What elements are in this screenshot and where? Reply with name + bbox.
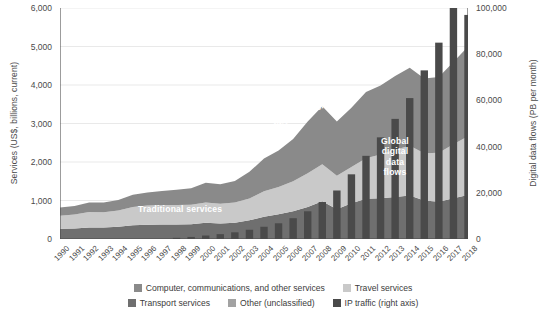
- chart-figure: Services (US$, billions, current) Digita…: [0, 0, 546, 314]
- bar-ip-traffic: [289, 218, 296, 239]
- y-tick-label: 6,000: [4, 3, 52, 13]
- bar-ip-traffic: [275, 223, 282, 239]
- legend-item[interactable]: IP traffic (right axis): [333, 298, 419, 308]
- legend-swatch-icon: [128, 299, 136, 307]
- annotation-global-digital-data-flows: Globaldigitaldataflows: [370, 136, 420, 178]
- bar-ip-traffic: [421, 70, 428, 239]
- bar-ip-traffic: [464, 15, 468, 239]
- y-tick-label: 3,000: [4, 119, 52, 129]
- legend-swatch-icon: [333, 299, 341, 307]
- legend-item[interactable]: Travel services: [343, 283, 412, 293]
- legend-label: Computer, communications, and other serv…: [146, 283, 325, 293]
- legend-row-1: Computer, communications, and other serv…: [0, 280, 546, 295]
- legend-item[interactable]: Other (unclassified): [228, 298, 315, 308]
- bar-ip-traffic: [304, 211, 311, 239]
- legend-item[interactable]: Computer, communications, and other serv…: [134, 283, 325, 293]
- y-tick-label: 2,000: [4, 157, 52, 167]
- bar-ip-traffic: [435, 43, 442, 239]
- y2-tick-label: 0: [476, 234, 522, 244]
- legend-row-2: Transport servicesOther (unclassified)IP…: [0, 295, 546, 310]
- y-tick-label: 4,000: [4, 80, 52, 90]
- bar-ip-traffic: [362, 156, 369, 239]
- y-axis-right-title: Digital data flows (PB per month): [528, 48, 538, 198]
- chart-legend: Computer, communications, and other serv…: [0, 280, 546, 310]
- y2-tick-label: 80,000: [476, 49, 522, 59]
- y2-tick-label: 40,000: [476, 142, 522, 152]
- bar-ip-traffic: [260, 227, 267, 239]
- legend-swatch-icon: [343, 284, 351, 292]
- y2-tick-label: 20,000: [476, 188, 522, 198]
- bar-ip-traffic: [333, 190, 340, 239]
- legend-label: Other (unclassified): [240, 298, 315, 308]
- annotation-traditional-services: Traditional services: [138, 204, 222, 214]
- bar-ip-traffic: [231, 232, 238, 239]
- y-tick-label: 0: [4, 234, 52, 244]
- y-tick-label: 5,000: [4, 42, 52, 52]
- bar-ip-traffic: [348, 174, 355, 239]
- legend-label: Travel services: [355, 283, 412, 293]
- legend-swatch-icon: [228, 299, 236, 307]
- legend-item[interactable]: Transport services: [128, 298, 210, 308]
- bar-ip-traffic: [450, 8, 457, 239]
- bar-ip-traffic: [246, 230, 253, 239]
- bar-ip-traffic: [217, 234, 224, 239]
- legend-label: Transport services: [140, 298, 210, 308]
- y-tick-label: 1,000: [4, 196, 52, 206]
- legend-label: IP traffic (right axis): [345, 298, 419, 308]
- bar-ip-traffic: [319, 202, 326, 239]
- legend-swatch-icon: [134, 284, 142, 292]
- y2-tick-label: 100,000: [476, 3, 522, 13]
- y2-tick-label: 60,000: [476, 95, 522, 105]
